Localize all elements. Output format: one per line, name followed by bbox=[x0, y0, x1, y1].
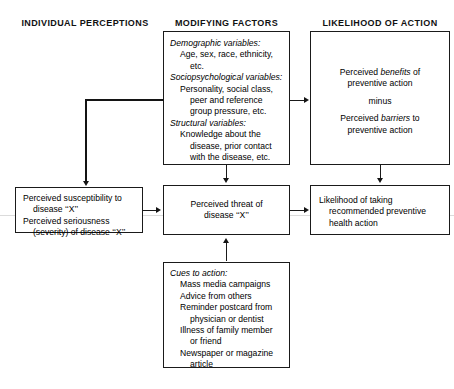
box-cues-to-action: Cues to action: Mass media campaigns Adv… bbox=[163, 262, 290, 368]
modifying-line-9: disease, prior contact bbox=[170, 141, 284, 152]
susceptibility-line-3: (severity) of disease ‘‘X’’ bbox=[23, 227, 138, 238]
box-likelihood-of-action: Likelihood of taking recommended prevent… bbox=[310, 185, 450, 235]
cues-line-2: Advice from others bbox=[170, 291, 285, 302]
connector-benefits-to-likelihood-line bbox=[380, 165, 381, 179]
modifying-line-5: peer and reference bbox=[170, 95, 284, 106]
susceptibility-line-0: Perceived susceptibility to bbox=[23, 193, 138, 204]
modifying-line-4: Personality, social class, bbox=[170, 84, 284, 95]
likelihood-line-0: Likelihood of taking bbox=[319, 195, 445, 206]
cues-line-7: Newspaper or magazine bbox=[170, 348, 285, 359]
connector-modifying-to-susceptibility-horizontal bbox=[85, 99, 164, 101]
arrowhead-into-threat-from-cues bbox=[223, 238, 229, 243]
arrowhead-into-likelihood-from-benefits bbox=[377, 178, 383, 183]
cues-line-8: article bbox=[170, 359, 285, 370]
benefits-line-3: Perceived barriers to bbox=[311, 113, 449, 124]
box-perceived-threat: Perceived threat of disease ‘‘X’’ bbox=[163, 185, 290, 235]
susceptibility-line-2: Perceived seriousness bbox=[23, 216, 138, 227]
column-header-individual-perceptions: INDIVIDUAL PERCEPTIONS bbox=[15, 18, 155, 28]
likelihood-line-2: health action bbox=[319, 218, 445, 229]
modifying-line-6: group pressure, etc. bbox=[170, 106, 284, 117]
benefits-line-0: Perceived benefits of bbox=[311, 67, 449, 78]
cues-line-3: Reminder postcard from bbox=[170, 302, 285, 313]
benefits-line-2: minus bbox=[311, 96, 449, 107]
modifying-line-10: with the disease, etc. bbox=[170, 152, 284, 163]
box-perceived-benefits-barriers: Perceived benefits of preventive action … bbox=[310, 31, 450, 165]
connector-susceptibility-to-threat-line bbox=[143, 210, 157, 211]
threat-line-1: disease ‘‘X’’ bbox=[164, 210, 289, 221]
connector-modifying-to-susceptibility-vertical bbox=[85, 99, 87, 182]
benefits-line-4: preventive action bbox=[311, 125, 449, 136]
box-perceived-susceptibility: Perceived susceptibility to disease ‘‘X’… bbox=[15, 187, 143, 233]
likelihood-line-1: recommended preventive bbox=[319, 206, 445, 217]
cues-line-1: Mass media campaigns bbox=[170, 279, 285, 290]
cues-line-5: Illness of family member bbox=[170, 325, 285, 336]
health-belief-model-diagram: INDIVIDUAL PERCEPTIONS MODIFYING FACTORS… bbox=[0, 0, 454, 389]
arrowhead-into-susceptibility bbox=[83, 181, 89, 186]
connector-threat-to-likelihood-line bbox=[290, 210, 305, 211]
connector-modifying-to-threat-line bbox=[226, 165, 227, 179]
benefits-line-1: preventive action bbox=[311, 78, 449, 89]
box-modifying-factors: Demographic variables: Age, sex, race, e… bbox=[163, 31, 290, 165]
arrowhead-into-threat-from-modifying bbox=[223, 178, 229, 183]
modifying-line-3: Sociopsychological variables: bbox=[170, 72, 284, 83]
arrowhead-into-benefits bbox=[304, 97, 309, 103]
susceptibility-line-1: disease ‘‘X’’ bbox=[23, 204, 138, 215]
modifying-line-1: Age, sex, race, ethnicity, bbox=[170, 49, 284, 60]
cues-line-4: physician or dentist bbox=[170, 314, 285, 325]
connector-cues-to-threat-line bbox=[226, 243, 227, 261]
modifying-line-0: Demographic variables: bbox=[170, 38, 284, 49]
connector-modifying-to-benefits-line bbox=[290, 100, 305, 101]
arrowhead-into-likelihood-from-threat bbox=[304, 207, 309, 213]
arrowhead-into-threat-from-susceptibility bbox=[156, 207, 161, 213]
cues-line-6: or friend bbox=[170, 336, 285, 347]
modifying-line-2: etc. bbox=[170, 61, 284, 72]
threat-line-0: Perceived threat of bbox=[164, 199, 289, 210]
column-header-modifying-factors: MODIFYING FACTORS bbox=[163, 18, 290, 28]
column-header-likelihood-of-action: LIKELIHOOD OF ACTION bbox=[310, 18, 450, 28]
modifying-line-8: Knowledge about the bbox=[170, 129, 284, 140]
modifying-line-7: Structural variables: bbox=[170, 118, 284, 129]
cues-line-0: Cues to action: bbox=[170, 268, 285, 279]
